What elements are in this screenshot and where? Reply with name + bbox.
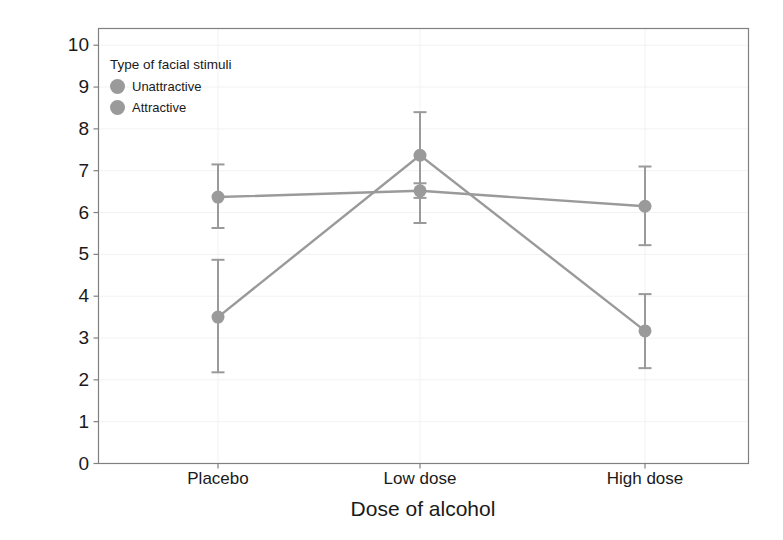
x-tick-label: Low dose [384, 469, 457, 489]
legend-entry-label: Attractive [132, 100, 186, 115]
data-point-marker [639, 324, 652, 337]
legend-entries: UnattractiveAttractive [110, 76, 310, 118]
legend-entry: Unattractive [110, 76, 310, 97]
legend-entry-label: Unattractive [132, 79, 201, 94]
legend-entry: Attractive [110, 97, 310, 118]
series-group [212, 112, 652, 372]
x-tick-marks [218, 464, 645, 469]
x-axis-tick-labels: PlaceboLow doseHigh dose [98, 469, 748, 499]
data-series-layer [212, 112, 652, 372]
circle-marker-icon [110, 100, 125, 115]
circle-marker-icon [110, 79, 125, 94]
series-line [218, 155, 645, 331]
series-group [212, 164, 652, 245]
series-line [218, 191, 645, 206]
data-point-marker [639, 200, 652, 213]
data-point-marker [414, 149, 427, 162]
legend: Type of facial stimuli UnattractiveAttra… [110, 57, 310, 118]
legend-title: Type of facial stimuli [110, 57, 310, 72]
y-tick-marks [94, 45, 99, 463]
x-axis-title: Dose of alcohol [98, 497, 748, 521]
data-point-marker [212, 311, 225, 324]
data-point-marker [212, 191, 225, 204]
x-tick-label: Placebo [187, 469, 248, 489]
error-bar-line-chart: Mean attractiveness rating 012345678910 … [0, 0, 783, 540]
x-tick-label: High dose [607, 469, 684, 489]
